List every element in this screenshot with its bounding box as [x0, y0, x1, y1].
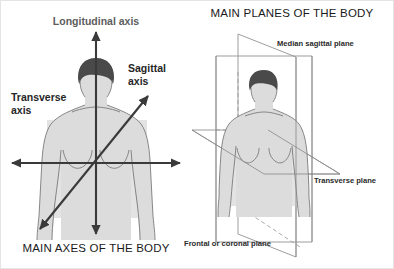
transverse-axis-label-line2: axis: [11, 104, 32, 116]
anatomy-diagram: Longitudinal axis Sagittal axis Transver…: [0, 0, 394, 269]
right-panel-planes: MAIN PLANES OF THE BODY: [184, 7, 376, 257]
transverse-axis-label-line1: Transverse: [11, 91, 67, 103]
median-sagittal-plane-label: Median sagittal plane: [277, 39, 354, 48]
right-panel-title: MAIN PLANES OF THE BODY: [211, 7, 374, 19]
frontal-coronal-plane-label: Frontal or coronal plane: [184, 239, 271, 248]
left-panel-axes: Longitudinal axis Sagittal axis Transver…: [11, 15, 180, 254]
diagram-canvas: Longitudinal axis Sagittal axis Transver…: [0, 0, 394, 269]
left-panel-title: MAIN AXES OF THE BODY: [22, 242, 169, 254]
sagittal-axis-label-line2: axis: [128, 75, 149, 87]
transverse-plane-label: Transverse plane: [314, 176, 376, 185]
sagittal-axis-label-line1: Sagittal: [128, 62, 166, 74]
longitudinal-axis-label: Longitudinal axis: [53, 15, 139, 27]
